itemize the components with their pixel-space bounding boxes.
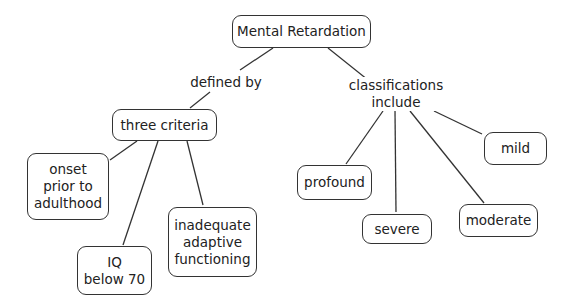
criterion-onset-node[interactable]: onset prior to adulthood (27, 153, 109, 220)
classification-profound-node[interactable]: profound (297, 165, 372, 200)
criterion-adaptive-node[interactable]: inadequate adaptive functioning (168, 207, 257, 277)
link-label-defined-by: defined by (190, 74, 262, 91)
root-node[interactable]: Mental Retardation (232, 15, 371, 48)
link-label-classifications: classifications include (349, 77, 443, 111)
three-criteria-node[interactable]: three criteria (112, 109, 217, 141)
classification-moderate-node[interactable]: moderate (459, 204, 538, 237)
classification-mild-node[interactable]: mild (484, 132, 547, 165)
classification-severe-node[interactable]: severe (362, 214, 432, 244)
criterion-iq-node[interactable]: IQ below 70 (77, 246, 152, 295)
